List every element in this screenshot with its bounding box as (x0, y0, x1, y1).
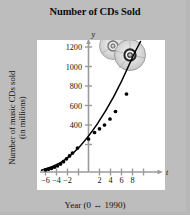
data-point (93, 131, 97, 135)
y-axis-arrow (86, 39, 90, 45)
x-tick-label: 8 (130, 176, 134, 185)
chart-svg: 1200 1000 800 600 400 −6 −4 −2 2 4 6 8 y… (0, 0, 190, 224)
y-tick-label: 600 (70, 102, 82, 111)
data-point (98, 127, 102, 131)
x-tick-labels: −6 −4 −2 2 4 6 8 (41, 176, 134, 185)
figure-container: Number of CDs Sold Number of music CDs s… (0, 0, 190, 224)
y-axis-name: y (91, 30, 96, 39)
data-point (62, 160, 66, 164)
data-points (44, 92, 129, 171)
x-axis-name: t (166, 168, 169, 177)
y-tick-label: 1200 (66, 43, 82, 52)
y-tick-label: 800 (70, 82, 82, 91)
data-point (71, 151, 75, 155)
data-point (87, 137, 91, 141)
compact-disc-graphic (100, 33, 146, 71)
y-tick-label: 1000 (66, 63, 82, 72)
x-tick-label: −4 (52, 176, 61, 185)
data-point (103, 123, 107, 127)
x-tick-label: 2 (97, 176, 101, 185)
x-tick-label: 6 (119, 176, 123, 185)
x-axis-arrow (158, 170, 164, 174)
data-point (108, 117, 112, 121)
y-tick-labels: 1200 1000 800 600 400 (66, 43, 82, 130)
compact-disc-front-icon (115, 40, 146, 71)
data-point (68, 154, 72, 158)
data-point (125, 92, 129, 96)
x-tick-label: −6 (41, 176, 50, 185)
y-tick-label: 400 (70, 121, 82, 130)
data-point (65, 157, 69, 161)
x-tick-label: 4 (108, 176, 112, 185)
data-point (76, 146, 80, 150)
x-tick-label: −2 (63, 176, 72, 185)
data-point (59, 162, 63, 166)
data-point (114, 110, 118, 114)
